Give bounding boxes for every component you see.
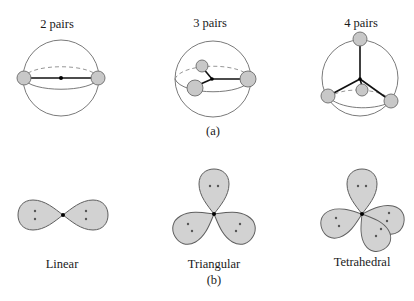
electron-dot: [34, 210, 36, 212]
central-atom: [61, 213, 65, 217]
equator-back-dashed: [175, 66, 251, 79]
title-2-pairs: 2 pairs: [40, 17, 74, 31]
lobe-model-linear: Linear: [18, 200, 108, 271]
electron-dot: [335, 217, 337, 219]
electron-pair-ball: [240, 71, 256, 87]
electron-dot: [191, 230, 193, 232]
sphere-model-3-pairs: 3 pairs (a): [175, 16, 256, 138]
equator-front: [175, 79, 251, 92]
central-atom: [210, 77, 214, 81]
electron-pair-ball: [17, 71, 31, 85]
lobe-model-triangular: Triangular (b): [168, 169, 261, 287]
label-tetrahedral: Tetrahedral: [334, 255, 391, 269]
sphere-model-2-pairs: 2 pairs: [17, 17, 105, 116]
label-triangular: Triangular: [188, 257, 241, 271]
title-3-pairs: 3 pairs: [193, 16, 227, 30]
electron-dot: [386, 220, 388, 222]
electron-dot: [235, 230, 237, 232]
electron-pair-ball: [353, 32, 367, 46]
electron-pair-geometry-figure: 2 pairs 3 pairs (a) 4 pairs: [0, 0, 414, 301]
electron-dot: [380, 228, 382, 230]
part-b-label: (b): [207, 273, 222, 287]
part-a-label: (a): [206, 124, 220, 138]
electron-dot: [239, 223, 241, 225]
electron-dot: [209, 185, 211, 187]
title-4-pairs: 4 pairs: [344, 16, 378, 30]
electron-dot: [187, 223, 189, 225]
orbital-lobe: [63, 200, 108, 230]
electron-pair-ball-back: [356, 84, 368, 96]
equator-front: [329, 98, 392, 108]
orbital-lobe: [347, 169, 377, 214]
sphere-model-4-pairs: 4 pairs: [321, 16, 398, 116]
central-atom: [358, 77, 362, 81]
label-linear: Linear: [46, 257, 79, 271]
electron-dot: [375, 235, 377, 237]
orbital-lobe: [18, 200, 63, 230]
lobe-model-tetrahedral: Tetrahedral: [317, 169, 407, 269]
electron-pair-ball: [384, 94, 398, 108]
electron-dot: [357, 185, 359, 187]
electron-dot: [85, 218, 87, 220]
electron-dot: [34, 218, 36, 220]
electron-dot: [217, 185, 219, 187]
central-atom: [59, 76, 63, 80]
central-atom: [212, 212, 216, 216]
electron-pair-ball: [196, 60, 208, 72]
orbital-lobe: [199, 169, 229, 214]
central-atom: [360, 212, 364, 216]
electron-pair-ball: [91, 71, 105, 85]
electron-dot: [338, 225, 340, 227]
electron-pair-ball: [321, 89, 335, 103]
electron-dot: [388, 212, 390, 214]
electron-dot: [85, 210, 87, 212]
electron-dot: [365, 185, 367, 187]
electron-pair-ball: [187, 80, 203, 96]
